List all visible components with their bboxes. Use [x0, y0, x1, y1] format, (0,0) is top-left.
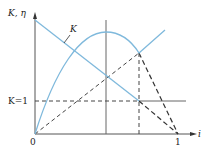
k-label-pointer [64, 35, 70, 43]
x-axis-label: i [198, 129, 201, 139]
x-axis-arrow-icon [190, 132, 197, 136]
apex-to-one-dashed [139, 53, 178, 134]
k1-label: K=1 [8, 96, 28, 106]
origin-to-apex-dashed [35, 53, 139, 134]
k-extension-dashed [139, 101, 178, 134]
k-curve [35, 20, 139, 101]
y-axis-label: K, η [7, 8, 26, 18]
y-axis-arrow-icon [33, 12, 37, 19]
diagram: K, η K K=1 0 1 i [0, 0, 206, 155]
curve-k-label: K [69, 24, 78, 34]
x-tick-label: 1 [175, 137, 181, 147]
origin-label: 0 [30, 137, 36, 147]
